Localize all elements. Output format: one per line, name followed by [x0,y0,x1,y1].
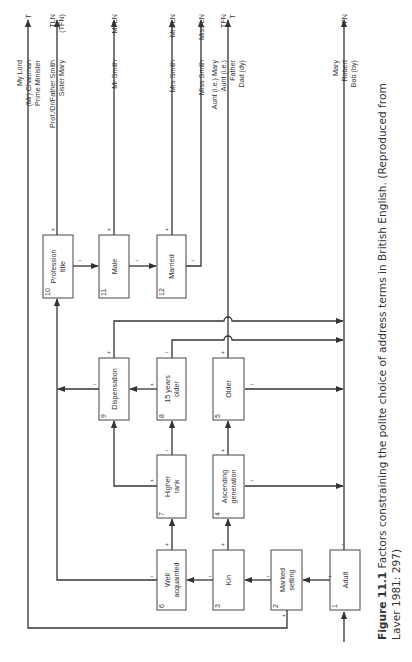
address-example: Mr Smith [110,60,119,89]
factor-box-5: Older5 [213,358,244,420]
box-label: Higher [163,475,172,497]
address-example: Mrs Smith [168,60,177,92]
box-label: Married [167,254,176,278]
sign-label: − [208,573,212,579]
sign-label: − [250,477,254,483]
address-example: Bob (by) [349,60,358,87]
box-number: 5 [214,414,221,418]
address-code: FN [340,14,349,24]
sign-label: + [165,541,169,547]
address-example: (Mr) Chairman [24,60,33,106]
sign-label: − [78,257,82,263]
address-example: Sister Mary [57,60,66,97]
box-number: 12 [158,288,165,296]
box-label: acquainted [172,562,181,597]
sign-label: + [221,447,225,453]
sign-label: − [191,257,195,263]
factor-box-12: Married12 [157,235,186,298]
box-number: 6 [158,604,165,608]
sign-label: + [165,226,169,232]
sign-label: + [150,477,154,483]
box-label: Adult [341,572,350,588]
figure-caption: Figure 11.1 Factors constraining the pol… [376,83,402,640]
box-number: 8 [158,414,165,418]
box-number: 10 [44,288,51,296]
address-code: T [24,13,33,18]
box-label: Older [224,380,233,398]
box-number: 9 [100,414,107,418]
address-code: Mrs LN [168,14,177,37]
sign-label: − [341,541,345,547]
factor-box-4: Ascendinggeneration4 [213,455,244,518]
sign-label: + [150,381,154,387]
address-code: Miss LN [197,14,206,40]
address-example: Aunt (i.e.) [219,60,228,91]
svg-text:Figure 11.1 Factors constraini: Figure 11.1 Factors constraining the pol… [376,83,388,640]
address-example: Robert [340,60,349,82]
sign-label: − [150,573,154,579]
sign-label: + [107,226,111,232]
sign-label: + [328,573,332,579]
address-code: T [228,13,237,18]
sign-label: + [221,349,225,355]
sign-label: − [250,381,254,387]
factor-box-11: Male11 [99,235,129,298]
sign-label: − [93,381,97,387]
address-example: Prime Minister [33,59,42,106]
address-code: Mr LN [110,14,119,34]
address-example: Mary [331,60,340,76]
box-label: 15 years [163,375,172,403]
address-code: TLN [48,14,57,28]
box-number: 2 [272,604,279,608]
sign-label: + [51,226,55,232]
box-label: rank [172,479,181,493]
address-terms-diagram: Adult1Markedsetting2Kin3Ascendinggenerat… [0,0,412,662]
factor-box-8: 15 yearsolder8 [157,358,186,420]
factor-box-1: Adult1 [330,550,360,610]
address-code: TFN [219,14,228,28]
address-example: Father [228,59,237,80]
output-labels: TMy Lord(Mr) ChairmanPrime MinisterTLN(T… [15,13,358,128]
factor-box-7: Higherrank7 [157,455,186,518]
box-label: Ascending [220,470,229,504]
factor-boxes: Adult1Markedsetting2Kin3Ascendinggenerat… [43,235,360,610]
factor-box-3: Kin3 [213,550,244,610]
box-number: 4 [214,512,221,516]
sign-label: + [282,612,286,618]
box-number: 7 [158,512,165,516]
factor-box-6: Wellacquainted6 [157,550,186,610]
address-example: My Lord [15,60,24,86]
box-label: Dispensation [110,368,119,410]
box-label: setting [287,569,296,590]
factor-box-2: Markedsetting2 [271,550,302,610]
factor-box-9: Dispensation9 [99,358,129,420]
address-code: (TFN) [57,14,66,33]
box-label: Male [110,259,119,275]
sign-label: − [165,447,169,453]
sign-label: − [266,573,270,579]
address-example: Aunt (i.e.) Mary [210,60,219,110]
factor-box-10: Professiontitle10 [43,235,73,298]
sign-label: − [165,349,169,355]
box-label: Marked [278,568,287,592]
connector-lines [28,20,344,642]
box-label: older [172,380,181,397]
sign-label: − [135,257,139,263]
box-label: Well [163,573,172,587]
box-label: title [58,261,67,272]
svg-text:Laver 1981: 297): Laver 1981: 297) [390,549,402,640]
address-example: Dad (dy) [237,60,246,88]
box-number: 11 [100,289,107,296]
box-number: 1 [331,604,338,608]
sign-label: + [221,541,225,547]
box-number: 3 [214,604,221,608]
box-label: Kin [224,575,233,585]
address-example: Prof./Dr/Father Smith [48,60,57,128]
box-label: generation [229,470,238,504]
address-example: Miss Smith [197,60,206,95]
sign-label: + [107,349,111,355]
box-label: Profession [49,250,58,284]
